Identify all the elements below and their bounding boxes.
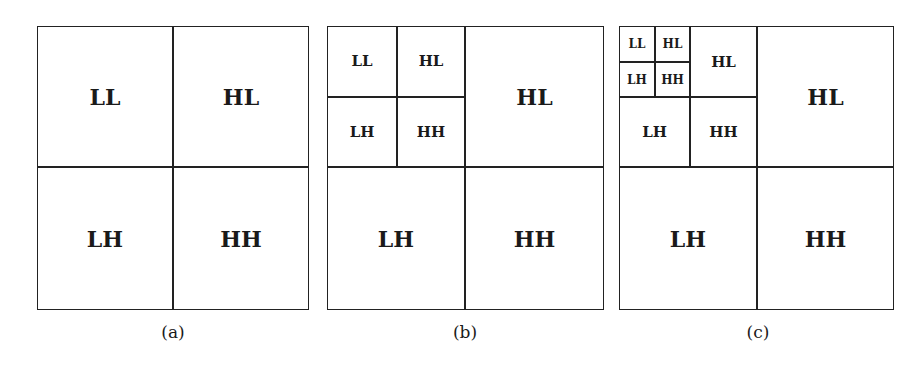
subband-hh3: HH <box>655 62 690 97</box>
subband-lh: LH <box>37 167 173 310</box>
subband-lh2: LH <box>619 97 690 167</box>
subband-hl: HL <box>173 26 309 167</box>
subband-hh2: HH <box>397 97 465 167</box>
subband-hh2: HH <box>690 97 757 167</box>
subband-hh: HH <box>173 167 309 310</box>
caption-a: (a) <box>143 322 203 342</box>
subband-ll2: LL <box>327 26 397 96</box>
subband-lh2: LH <box>327 97 397 167</box>
caption-c: (c) <box>728 322 788 342</box>
subband-hl3: HL <box>655 26 690 62</box>
caption-b: (b) <box>435 322 495 342</box>
subband-lh: LH <box>619 167 757 310</box>
subband-lh: LH <box>327 167 465 310</box>
subband-ll: LL <box>37 26 173 167</box>
subband-hl: HL <box>465 26 604 167</box>
subband-hh: HH <box>465 167 604 310</box>
subband-hh: HH <box>757 167 894 310</box>
subband-ll3: LL <box>619 26 655 62</box>
subband-hl: HL <box>757 26 894 167</box>
subband-hl2: HL <box>397 26 465 96</box>
subband-lh3: LH <box>619 62 655 97</box>
subband-hl2: HL <box>690 26 757 97</box>
